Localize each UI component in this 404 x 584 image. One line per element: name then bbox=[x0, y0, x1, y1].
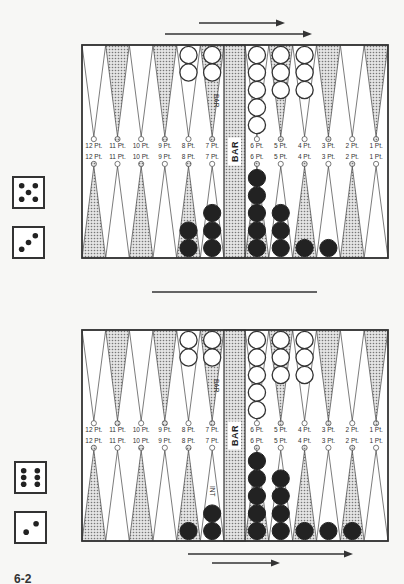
white-checker bbox=[180, 64, 197, 81]
point-label-bottom: 8 Pt. bbox=[182, 153, 196, 160]
board-after-move: 12 Pt.12 Pt.11 Pt.11 Pt.10 Pt.10 Pt.9 Pt… bbox=[82, 330, 388, 541]
white-checker bbox=[180, 349, 197, 366]
black-checker bbox=[272, 222, 289, 239]
black-checker bbox=[248, 222, 265, 239]
point-label-top: 4 Pt. bbox=[298, 426, 312, 433]
point-tip-icon bbox=[302, 445, 307, 450]
point-label-top: 7 Pt. bbox=[205, 426, 219, 433]
direction-arrow-icon bbox=[188, 551, 353, 558]
pip-icon bbox=[26, 190, 32, 196]
point-label-bottom: 9 Pt. bbox=[158, 153, 172, 160]
point-label-bottom: 4 Pt. bbox=[298, 153, 312, 160]
pip-icon bbox=[23, 529, 29, 535]
pip-icon bbox=[35, 475, 41, 481]
white-checker bbox=[248, 64, 265, 81]
point-tip-icon bbox=[326, 161, 331, 166]
pip-icon bbox=[19, 247, 25, 253]
point-label-bottom: 9 Pt. bbox=[158, 437, 172, 444]
black-checker bbox=[248, 522, 265, 539]
point-tip-icon bbox=[162, 161, 167, 166]
point-tip-icon bbox=[302, 161, 307, 166]
point-label-top: 5 Pt. bbox=[274, 426, 288, 433]
white-checker bbox=[272, 366, 289, 383]
point-tip-icon bbox=[115, 445, 120, 450]
white-checker bbox=[248, 384, 265, 401]
white-checker bbox=[204, 64, 221, 81]
white-checker bbox=[248, 99, 265, 116]
point-label-top: 6 Pt. bbox=[250, 426, 264, 433]
black-checker bbox=[296, 239, 313, 256]
white-checker bbox=[204, 46, 221, 63]
white-checker bbox=[296, 46, 313, 63]
pip-icon bbox=[33, 233, 39, 239]
point-tip-icon bbox=[115, 161, 120, 166]
white-checker bbox=[296, 366, 313, 383]
white-checker bbox=[296, 331, 313, 348]
white-checker bbox=[248, 116, 265, 133]
point-label-bottom: 11 Pt. bbox=[109, 437, 126, 444]
point-label-bottom: 3 Pt. bbox=[322, 153, 336, 160]
black-checker bbox=[248, 239, 265, 256]
white-checker bbox=[248, 366, 265, 383]
white-checker bbox=[296, 64, 313, 81]
point-note-top: BAR bbox=[213, 379, 220, 393]
point-label-top: 10 Pt. bbox=[133, 142, 150, 149]
point-label-top: 11 Pt. bbox=[109, 142, 126, 149]
point-label-top: 3 Pt. bbox=[322, 426, 336, 433]
white-checker bbox=[248, 81, 265, 98]
point-tip-icon bbox=[210, 445, 215, 450]
pip-icon bbox=[19, 183, 25, 189]
point-label-bottom: 2 Pt. bbox=[346, 153, 360, 160]
point-tip-icon bbox=[139, 445, 144, 450]
pip-icon bbox=[26, 240, 32, 246]
point-label-bottom: 11 Pt. bbox=[109, 153, 126, 160]
arrow-head-icon bbox=[344, 551, 353, 558]
direction-arrow-icon bbox=[199, 20, 285, 27]
black-checker bbox=[248, 187, 265, 204]
point-label-bottom: 12 Pt. bbox=[85, 153, 102, 160]
black-checker bbox=[272, 204, 289, 221]
white-checker bbox=[272, 331, 289, 348]
point-label-bottom: 6 Pt. bbox=[250, 153, 264, 160]
point-tip-icon bbox=[350, 161, 355, 166]
die-6 bbox=[15, 462, 46, 493]
black-checker bbox=[248, 204, 265, 221]
black-checker bbox=[180, 239, 197, 256]
point-label-bottom: 10 Pt. bbox=[133, 437, 150, 444]
point-label-top: 12 Pt. bbox=[85, 142, 102, 149]
point-tip-icon bbox=[186, 445, 191, 450]
white-checker bbox=[204, 349, 221, 366]
point-label-bottom: 5 Pt. bbox=[274, 153, 288, 160]
black-checker bbox=[180, 522, 197, 539]
point-label-bottom: 3 Pt. bbox=[322, 437, 336, 444]
bar-label: BAR bbox=[230, 425, 240, 446]
point-tip-icon bbox=[186, 161, 191, 166]
white-checker bbox=[272, 46, 289, 63]
black-checker bbox=[204, 222, 221, 239]
pip-icon bbox=[21, 475, 27, 481]
point-tip-icon bbox=[91, 161, 96, 166]
pip-icon bbox=[33, 197, 39, 203]
white-checker bbox=[272, 349, 289, 366]
point-tip-icon bbox=[350, 445, 355, 450]
point-label-bottom: 7 Pt. bbox=[205, 437, 219, 444]
point-label-bottom: 10 Pt. bbox=[133, 153, 150, 160]
arrow-head-icon bbox=[271, 560, 280, 567]
white-checker bbox=[296, 81, 313, 98]
point-tip-icon bbox=[91, 445, 96, 450]
pip-icon bbox=[21, 468, 27, 474]
point-label-top: 11 Pt. bbox=[109, 426, 126, 433]
white-checker bbox=[272, 81, 289, 98]
point-label-top: 6 Pt. bbox=[250, 142, 264, 149]
point-tip-icon bbox=[162, 445, 167, 450]
point-label-top: 5 Pt. bbox=[274, 142, 288, 149]
white-checker bbox=[248, 331, 265, 348]
point-tip-icon bbox=[373, 445, 378, 450]
white-checker bbox=[248, 349, 265, 366]
point-label-top: 4 Pt. bbox=[298, 142, 312, 149]
figure-label: 6-2 bbox=[14, 572, 31, 584]
pip-icon bbox=[33, 183, 39, 189]
arrow-head-icon bbox=[276, 20, 285, 27]
board-before-move: 12 Pt.12 Pt.11 Pt.11 Pt.10 Pt.10 Pt.9 Pt… bbox=[82, 45, 388, 258]
die-5 bbox=[13, 177, 44, 208]
